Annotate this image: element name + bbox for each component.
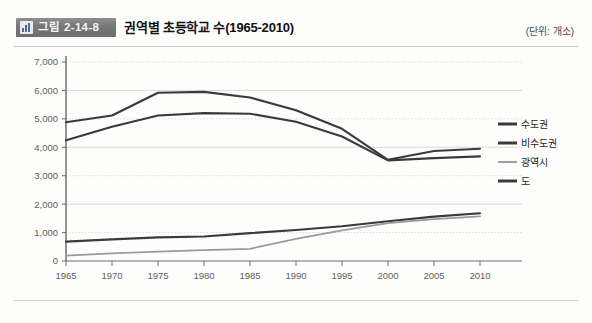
- x-tick-label: 1970: [101, 270, 122, 281]
- legend-label: 도: [521, 176, 530, 187]
- legend-label: 광역시: [521, 157, 548, 168]
- chart-x-tick-labels: 1965197019751980198519901995200020052010: [55, 261, 490, 281]
- legend-label: 비수도권: [521, 138, 557, 149]
- x-tick-label: 1975: [147, 270, 168, 281]
- y-tick-label: 1,000: [34, 227, 58, 238]
- y-tick-label: 3,000: [34, 170, 58, 181]
- x-tick-label: 1985: [239, 270, 260, 281]
- y-tick-label: 0: [53, 255, 58, 266]
- figure-number-badge: 그림 2-14-8: [16, 18, 116, 37]
- y-tick-label: 4,000: [34, 142, 58, 153]
- figure-container: 그림 2-14-8 권역별 초등학교 수(1965-2010) (단위: 개소)…: [0, 0, 592, 323]
- y-tick-label: 2,000: [34, 199, 58, 210]
- figure-header: 그림 2-14-8 권역별 초등학교 수(1965-2010) (단위: 개소): [0, 0, 592, 48]
- unit-note: (단위: 개소): [526, 23, 574, 38]
- legend-label: 수도권: [521, 119, 548, 130]
- x-tick-label: 1990: [285, 270, 306, 281]
- chart-gridlines: [66, 62, 522, 233]
- x-tick-label: 1995: [331, 270, 352, 281]
- series-line: [66, 92, 480, 160]
- line-chart: 01,0002,0003,0004,0005,0006,0007,000 196…: [0, 48, 592, 298]
- page-title: 권역별 초등학교 수(1965-2010): [124, 17, 294, 36]
- bar-chart-icon: [20, 21, 33, 34]
- footer-divider: [14, 300, 578, 301]
- series-line: [66, 213, 480, 241]
- chart-y-tick-labels: 01,0002,0003,0004,0005,0006,0007,000: [34, 56, 66, 266]
- chart-legend: 수도권비수도권광역시도: [498, 119, 557, 187]
- x-tick-label: 2010: [469, 270, 490, 281]
- series-line: [66, 216, 480, 255]
- x-tick-label: 2000: [377, 270, 398, 281]
- y-tick-label: 5,000: [34, 113, 58, 124]
- chart-series-group: [66, 92, 480, 256]
- x-tick-label: 1965: [55, 270, 76, 281]
- header-divider: [14, 46, 578, 47]
- x-tick-label: 1980: [193, 270, 214, 281]
- x-tick-label: 2005: [423, 270, 444, 281]
- chart-plot-area: 01,0002,0003,0004,0005,0006,0007,000 196…: [0, 48, 592, 298]
- figure-number-label: 그림 2-14-8: [38, 22, 99, 34]
- y-tick-label: 7,000: [34, 56, 58, 67]
- y-tick-label: 6,000: [34, 85, 58, 96]
